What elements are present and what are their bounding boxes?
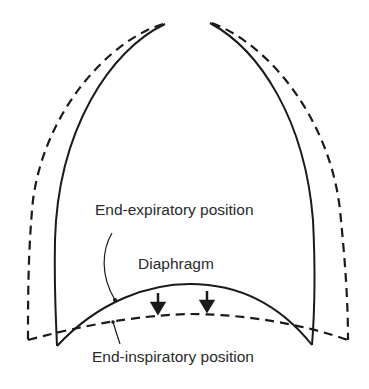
left-chest-wall-expiratory [55, 24, 165, 346]
leader-dot-inspiratory [111, 320, 115, 324]
leader-lines [104, 233, 120, 344]
downward-arrow-icon [152, 293, 164, 313]
leader-end-inspiratory [113, 322, 120, 344]
label-diaphragm: Diaphragm [138, 256, 214, 272]
left-chest-wall-inspiratory [28, 24, 163, 340]
downward-arrow-icon [201, 291, 213, 311]
leader-end-expiratory [104, 233, 115, 300]
end-inspiratory-outline [28, 23, 348, 340]
label-end-expiratory: End-expiratory position [95, 202, 254, 218]
right-chest-wall-inspiratory [212, 23, 348, 340]
label-end-inspiratory: End-inspiratory position [92, 349, 254, 365]
end-expiratory-outline [55, 23, 315, 346]
thorax-diagram [0, 0, 369, 389]
leader-dot-expiratory [113, 298, 117, 302]
right-chest-wall-expiratory [210, 23, 315, 345]
